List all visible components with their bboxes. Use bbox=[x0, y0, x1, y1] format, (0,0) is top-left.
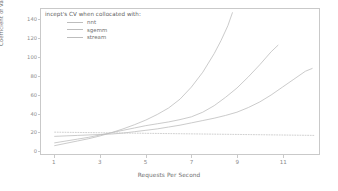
x-tick-mark bbox=[146, 155, 147, 158]
y-tick-mark bbox=[38, 57, 41, 58]
y-tick-mark bbox=[38, 132, 41, 133]
y-tick-mark bbox=[38, 19, 41, 20]
y-tick-mark bbox=[38, 38, 41, 39]
y-tick-mark bbox=[38, 114, 41, 115]
legend-label: stream bbox=[87, 34, 106, 40]
legend-item-nnt[interactable]: nnt bbox=[67, 19, 141, 27]
y-tick-label: 120 bbox=[11, 35, 37, 41]
y-tick-label: 0 bbox=[11, 148, 37, 154]
y-tick-label: 140 bbox=[11, 16, 37, 22]
y-tick-mark bbox=[38, 95, 41, 96]
x-tick-label: 11 bbox=[280, 159, 287, 165]
x-axis-tick-labels: 1357911 bbox=[40, 159, 320, 171]
y-tick-marks bbox=[37, 8, 40, 155]
legend-label: sgemm bbox=[87, 27, 107, 33]
chart-legend: incept's CV when collocated with: nntsge… bbox=[45, 11, 141, 41]
y-axis-title: Coefficient of Variation [%] bbox=[0, 0, 4, 46]
x-tick-label: 3 bbox=[98, 159, 102, 165]
series-line-sgemm bbox=[55, 45, 278, 143]
legend-entries: nntsgemmstream bbox=[45, 19, 141, 42]
x-tick-label: 7 bbox=[190, 159, 194, 165]
series-line-stream bbox=[55, 68, 312, 136]
x-tick-mark bbox=[191, 155, 192, 158]
legend-line-swatch bbox=[67, 37, 83, 38]
x-tick-label: 5 bbox=[144, 159, 148, 165]
chart-figure: 020406080100120140 1357911 Coefficient o… bbox=[0, 0, 338, 191]
y-tick-label: 20 bbox=[11, 129, 37, 135]
legend-item-stream[interactable]: stream bbox=[67, 34, 141, 42]
x-tick-mark bbox=[283, 155, 284, 158]
legend-item-sgemm[interactable]: sgemm bbox=[67, 26, 141, 34]
y-tick-label: 80 bbox=[11, 73, 37, 79]
x-tick-label: 9 bbox=[236, 159, 240, 165]
x-tick-mark bbox=[237, 155, 238, 158]
y-tick-label: 60 bbox=[11, 92, 37, 98]
y-tick-label: 100 bbox=[11, 54, 37, 60]
y-tick-label: 40 bbox=[11, 111, 37, 117]
x-tick-mark bbox=[54, 155, 55, 158]
legend-line-swatch bbox=[67, 29, 83, 30]
x-tick-label: 1 bbox=[52, 159, 56, 165]
y-tick-mark bbox=[38, 76, 41, 77]
y-tick-mark bbox=[38, 151, 41, 152]
legend-label: nnt bbox=[87, 19, 96, 25]
x-tick-marks bbox=[40, 155, 320, 158]
y-axis-tick-labels: 020406080100120140 bbox=[8, 8, 37, 155]
x-tick-mark bbox=[100, 155, 101, 158]
legend-title: incept's CV when collocated with: bbox=[45, 11, 141, 17]
x-axis-title: Requests Per Second bbox=[0, 172, 338, 178]
legend-line-swatch bbox=[67, 22, 83, 23]
